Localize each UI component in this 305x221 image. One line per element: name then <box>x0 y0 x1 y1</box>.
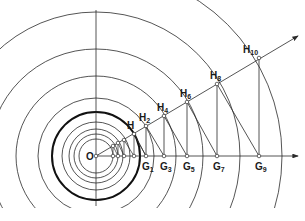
g-point <box>144 154 148 158</box>
ray-point <box>116 141 120 145</box>
g-point <box>185 154 189 158</box>
h-label-4: H4 <box>157 102 168 114</box>
g-label-9: G9 <box>255 161 267 173</box>
circle <box>0 0 282 221</box>
g-label-3: G3 <box>160 161 172 173</box>
g-point <box>162 154 166 158</box>
construction-points <box>94 56 261 158</box>
h-point <box>215 82 219 86</box>
axis-point <box>111 154 115 158</box>
g-label-5: G5 <box>183 161 195 173</box>
circle <box>0 12 240 221</box>
g-point <box>257 154 261 158</box>
diagonal-line <box>146 126 164 156</box>
h-point <box>132 132 136 136</box>
axes <box>96 10 298 206</box>
g-point <box>215 154 219 158</box>
ray-arrow <box>96 36 298 156</box>
axis-point <box>116 154 120 158</box>
h-point <box>185 100 189 104</box>
h-label-6: H6 <box>180 88 191 100</box>
ray-point <box>111 144 115 148</box>
concentric-circles <box>0 0 282 221</box>
h-point <box>257 56 261 60</box>
diagonal-line <box>124 140 134 156</box>
axis-point <box>132 154 136 158</box>
g-label-1: G1 <box>142 161 154 173</box>
diagonal-line <box>187 102 217 156</box>
spiral-construction-diagram: OHH2H4H6H8H10G1G3G5G7G9 <box>0 0 305 221</box>
h-point <box>144 124 148 128</box>
construction-lines <box>113 58 259 156</box>
h-label-0: H <box>127 120 134 131</box>
diagonal-line <box>217 84 259 156</box>
ray-point <box>122 138 126 142</box>
h-label-8: H8 <box>210 70 221 82</box>
h-label-10: H10 <box>243 44 258 56</box>
g-label-7: G7 <box>213 161 225 173</box>
origin-point <box>94 154 98 158</box>
h-point <box>162 114 166 118</box>
axis-point <box>122 154 126 158</box>
origin-label: O <box>86 151 94 162</box>
h-label-2: H2 <box>139 112 150 124</box>
